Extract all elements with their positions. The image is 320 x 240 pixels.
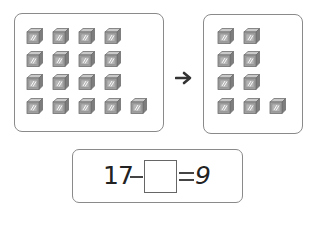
cube-icon (242, 97, 261, 115)
cube-icon (216, 50, 235, 68)
cube-icon (51, 97, 70, 115)
right-arrow-icon (175, 70, 192, 84)
cube-icon (77, 73, 96, 91)
cube-icon (103, 73, 122, 91)
cube-icon (51, 73, 70, 91)
cube-icon (242, 27, 261, 45)
equals-sign (179, 171, 194, 181)
cube-icon (216, 97, 235, 115)
cube-icon (25, 50, 44, 68)
cube-icon (242, 50, 261, 68)
cube-icon (216, 27, 235, 45)
cube-icon (242, 73, 261, 91)
equation-minuend: 17 (103, 159, 133, 193)
cube-icon (77, 97, 96, 115)
cube-icon (25, 27, 44, 45)
cube-icon (129, 97, 148, 115)
answer-input-box[interactable] (144, 160, 177, 193)
cube-icon (25, 97, 44, 115)
cube-icon (268, 97, 287, 115)
cube-icon (216, 73, 235, 91)
minus-sign (130, 176, 143, 178)
cube-icon (103, 50, 122, 68)
cube-icon (51, 50, 70, 68)
cube-icon (25, 73, 44, 91)
cube-icon (51, 27, 70, 45)
cube-icon (103, 97, 122, 115)
equation-result: 9 (195, 159, 211, 193)
cube-icon (77, 27, 96, 45)
cube-icon (77, 50, 96, 68)
cube-icon (103, 27, 122, 45)
